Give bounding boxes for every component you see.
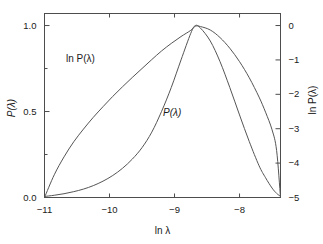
y-right-tick-label: −2 xyxy=(289,89,300,99)
y-right-tick-label: −1 xyxy=(289,55,300,65)
x-tick-label: −8 xyxy=(220,205,260,215)
y-right-axis-title-text: ln P(λ) xyxy=(307,86,318,115)
annotation-ln-p-lambda: ln P(λ) xyxy=(66,54,95,64)
y-left-axis-title: P(λ) xyxy=(7,86,17,130)
x-tick-label: −9 xyxy=(155,205,195,215)
y-right-tick-label: 0 xyxy=(289,21,294,31)
figure-container: 0.0 0.5 1.0 0 −1 −2 −3 −4 −5 −11 −10 −9 … xyxy=(0,0,323,244)
y-left-tick-label: 0.0 xyxy=(0,193,37,203)
x-tick-label: −11 xyxy=(25,205,65,215)
x-axis-title: ln λ xyxy=(44,226,281,236)
y-right-axis-title: ln P(λ) xyxy=(308,70,318,130)
y-left-tick-label: 1.0 xyxy=(0,21,37,31)
axis-ticks xyxy=(45,14,281,198)
annotation-p-lambda: P(λ) xyxy=(163,108,181,118)
x-tick-label: −10 xyxy=(90,205,130,215)
y-right-tick-label: −4 xyxy=(289,158,300,168)
plot-frame xyxy=(45,14,281,198)
y-right-tick-label: −5 xyxy=(289,193,300,203)
y-right-tick-label: −3 xyxy=(289,124,300,134)
